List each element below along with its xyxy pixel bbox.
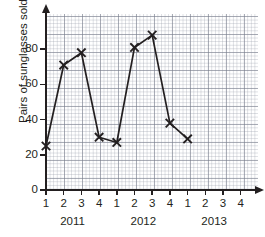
x-tick-label: 1 (37, 197, 55, 209)
x-tick (45, 190, 47, 195)
y-tick (40, 154, 46, 156)
x-tick-label: 3 (214, 197, 232, 209)
x-tick-label: 4 (90, 197, 108, 209)
x-tick (134, 190, 136, 195)
x-tick-label: 1 (179, 197, 197, 209)
x-tick (116, 190, 118, 195)
x-tick-label: 2 (55, 197, 73, 209)
x-tick-label: 2 (126, 197, 144, 209)
x-tick-label: 2 (196, 197, 214, 209)
x-axis-arrow-icon (255, 186, 264, 194)
x-tick (151, 190, 153, 195)
x-tick-label: 1 (108, 197, 126, 209)
x-tick-label: 3 (143, 197, 161, 209)
x-tick-label: 4 (232, 197, 250, 209)
x-tick (240, 190, 242, 195)
y-axis-arrow-icon (42, 4, 50, 13)
x-tick-label: 3 (72, 197, 90, 209)
x-tick (63, 190, 65, 195)
y-tick (40, 84, 46, 86)
x-tick (169, 190, 171, 195)
year-label: 2012 (103, 215, 183, 227)
y-tick-label: 60 (0, 78, 38, 90)
x-tick (222, 190, 224, 195)
sunglasses-line-chart: Pairs of sunglasses sold 020406080 12341… (0, 0, 265, 237)
x-tick (98, 190, 100, 195)
x-tick (205, 190, 207, 195)
plot-area-grid (46, 14, 258, 190)
year-label: 2013 (174, 215, 254, 227)
y-tick-label: 80 (0, 43, 38, 55)
y-tick-label: 20 (0, 149, 38, 161)
x-tick-label: 4 (161, 197, 179, 209)
x-tick (187, 190, 189, 195)
year-label: 2011 (33, 215, 113, 227)
y-tick (40, 48, 46, 50)
y-axis-line (45, 12, 47, 191)
x-tick (81, 190, 83, 195)
y-tick (40, 119, 46, 121)
y-tick-label: 40 (0, 114, 38, 126)
y-tick-label: 0 (0, 184, 38, 196)
